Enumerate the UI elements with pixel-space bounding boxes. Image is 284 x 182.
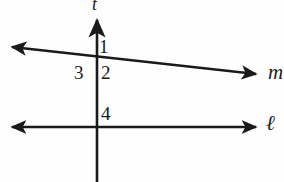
angle-label-3: 3	[74, 63, 84, 82]
line-label-l: ℓ	[266, 113, 275, 134]
angle-label-4: 4	[101, 104, 111, 123]
angle-label-2: 2	[101, 63, 111, 82]
line-label-t: t	[92, 0, 97, 13]
diagram-canvas	[0, 0, 284, 182]
line-m	[12, 47, 256, 74]
geometry-diagram: 1 3 2 4 t m ℓ	[0, 0, 284, 182]
angle-label-1: 1	[99, 37, 109, 56]
line-label-m: m	[268, 62, 283, 83]
